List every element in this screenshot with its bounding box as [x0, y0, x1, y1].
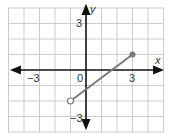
- y-tick-neg-3: −3: [70, 112, 83, 124]
- closed-endpoint: [130, 52, 136, 58]
- y-axis-label: y: [89, 3, 97, 15]
- y-tick-pos-3: 3: [76, 17, 82, 29]
- x-axis-label: x: [154, 54, 161, 66]
- x-tick-pos-3: 3: [129, 72, 135, 84]
- coordinate-plane: x y 0 −3 3 3 −3: [0, 0, 170, 140]
- open-endpoint: [68, 98, 74, 104]
- origin-label: 0: [77, 72, 83, 84]
- x-tick-neg-3: −3: [27, 72, 40, 84]
